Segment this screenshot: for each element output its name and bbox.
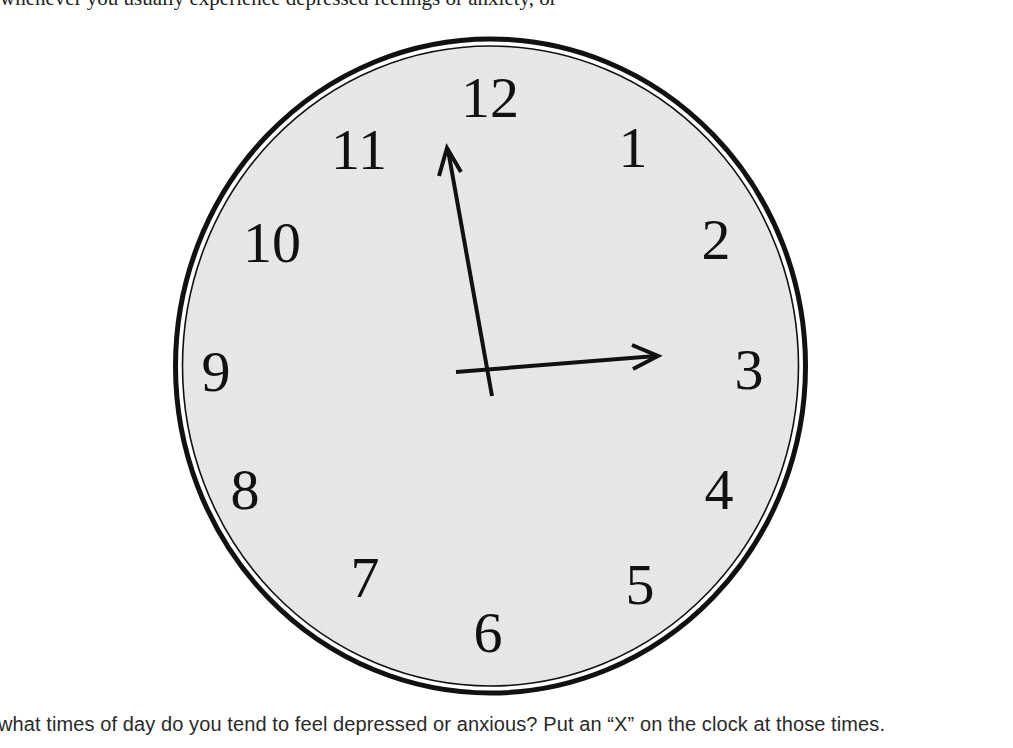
instruction-question: what times of day do you tend to feel de…	[0, 713, 885, 736]
numeral-6: 6	[474, 600, 503, 665]
numeral-11: 11	[331, 117, 387, 182]
numeral-5: 5	[626, 552, 655, 617]
numeral-3: 3	[735, 337, 764, 402]
numeral-4: 4	[705, 457, 734, 522]
numeral-9: 9	[202, 339, 231, 404]
numeral-8: 8	[231, 457, 260, 522]
numeral-2: 2	[702, 207, 731, 272]
clock-figure[interactable]: 12 1 2 3 4 5 6 7 8 9 10 11	[0, 0, 1013, 748]
numeral-10: 10	[243, 210, 301, 275]
numeral-1: 1	[619, 115, 648, 180]
numeral-12: 12	[461, 65, 519, 130]
clock-face[interactable]	[183, 46, 799, 686]
numeral-7: 7	[351, 545, 380, 610]
